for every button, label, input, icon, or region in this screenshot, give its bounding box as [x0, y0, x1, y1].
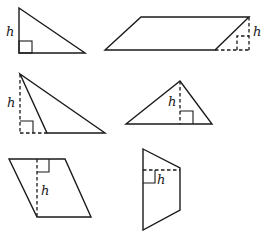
- right-angle-marker: [20, 121, 33, 133]
- height-label: h: [168, 94, 176, 109]
- right-angle-marker: [180, 111, 193, 124]
- right-angle-marker: [143, 170, 155, 183]
- shape-right-triangle: h: [6, 8, 85, 53]
- height-label: h: [6, 24, 14, 39]
- shapes-figure: h h h h h h: [0, 0, 263, 231]
- parallelogram-outline: [105, 17, 249, 50]
- height-label: h: [253, 24, 261, 39]
- shape-obtuse-triangle: h: [7, 74, 105, 133]
- height-label: h: [157, 172, 165, 187]
- shape-acute-triangle: h: [126, 81, 212, 124]
- shape-parallelogram-wide: h: [105, 17, 261, 50]
- trapezoid-outline: [143, 149, 180, 230]
- height-label: h: [7, 95, 15, 110]
- right-angle-marker: [237, 36, 249, 50]
- right-angle-marker: [19, 41, 32, 53]
- triangle-outline: [19, 8, 85, 53]
- shape-trapezoid: h: [143, 149, 180, 230]
- right-angle-marker: [37, 159, 49, 172]
- parallelogram-outline: [9, 159, 91, 217]
- shape-parallelogram-tall: h: [9, 159, 91, 217]
- height-label: h: [41, 183, 49, 198]
